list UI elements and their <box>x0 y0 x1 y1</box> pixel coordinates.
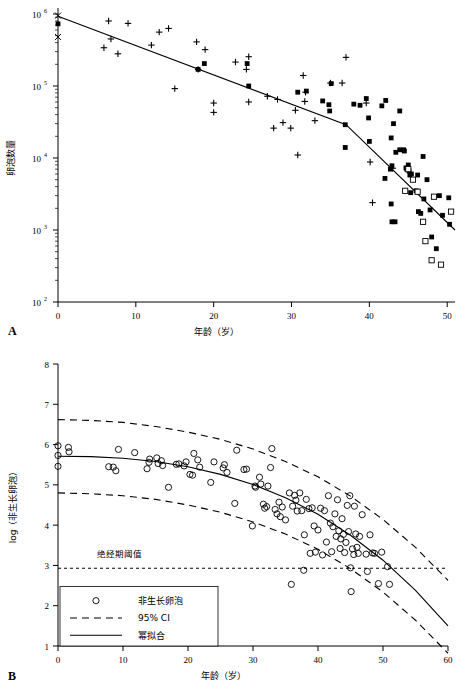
marker-circle-open <box>115 446 121 452</box>
marker-circle-open <box>301 532 307 538</box>
marker-square-filled <box>409 172 414 177</box>
y-tick-label-b: 2 <box>45 601 50 611</box>
marker-square-open <box>438 262 443 267</box>
x-axis-label-b: 年龄（岁） <box>201 670 246 681</box>
marker-square-filled <box>428 208 433 213</box>
marker-plus <box>202 46 208 52</box>
marker-circle-open <box>329 549 335 555</box>
marker-square-filled <box>366 116 371 121</box>
y-axis-label-a: 卵泡数量 <box>5 140 16 176</box>
marker-square-open <box>420 219 425 224</box>
marker-circle-open <box>332 511 338 517</box>
marker-circle-open <box>343 539 349 545</box>
marker-square-filled <box>358 103 363 108</box>
x-tick-label-b: 20 <box>184 655 194 665</box>
marker-square-filled <box>329 81 334 86</box>
y-tick-label-a: 102 <box>32 296 47 308</box>
x-tick-label-a: 0 <box>56 311 61 321</box>
marker-circle-open <box>334 497 340 503</box>
marker-square-filled <box>389 136 394 141</box>
marker-square-open <box>423 239 428 244</box>
marker-square-filled <box>246 84 251 89</box>
y-tick-label-a: 105 <box>32 80 47 92</box>
svg-text:4: 4 <box>44 152 47 158</box>
marker-circle-open <box>191 450 197 456</box>
marker-plus <box>292 107 298 113</box>
chart-b-canvas: 123456780102030405060log（非生长卵泡）年龄（岁）绝经期阈… <box>0 350 469 693</box>
marker-circle-open <box>351 503 357 509</box>
marker-plus <box>210 109 216 115</box>
marker-circle-open <box>258 481 264 487</box>
marker-square-open <box>431 194 436 199</box>
panel-a: 10210310410510601020304050卵泡数量年龄（岁） A <box>0 0 469 350</box>
marker-square-filled <box>421 154 426 159</box>
marker-plus <box>246 54 252 60</box>
marker-circle-open <box>267 464 273 470</box>
marker-square-filled <box>56 21 61 26</box>
marker-square-filled <box>383 98 388 103</box>
panel-b-letter: B <box>8 670 16 682</box>
marker-circle-open <box>299 508 305 514</box>
marker-plus <box>302 98 308 104</box>
marker-plus <box>193 39 199 45</box>
marker-circle-open <box>132 450 138 456</box>
marker-square-filled <box>418 211 423 216</box>
svg-text:10: 10 <box>32 10 42 20</box>
marker-square-filled <box>397 109 402 114</box>
y-tick-label-b: 6 <box>45 440 50 450</box>
marker-plus <box>300 72 306 78</box>
x-tick-label-b: 0 <box>56 655 61 665</box>
marker-circle-open <box>301 567 307 573</box>
marker-plus <box>246 99 252 105</box>
marker-square-filled <box>383 176 388 181</box>
marker-circle-open <box>234 447 240 453</box>
marker-circle-open <box>232 500 238 506</box>
marker-circle-open <box>208 479 214 485</box>
marker-square-filled <box>389 202 394 207</box>
svg-text:6: 6 <box>44 8 47 14</box>
chart-a-canvas: 10210310410510601020304050卵泡数量年龄（岁） <box>0 0 469 350</box>
marker-square-filled <box>393 219 398 224</box>
marker-circle-open <box>342 549 348 555</box>
marker-circle-open <box>282 517 288 523</box>
y-tick-label-b: 8 <box>45 360 50 370</box>
marker-circle-open <box>325 493 331 499</box>
svg-text:10: 10 <box>32 226 42 236</box>
marker-circle-open <box>195 457 201 463</box>
marker-plus <box>295 152 301 158</box>
panel-a-letter: A <box>8 325 17 337</box>
marker-square-filled <box>402 149 407 154</box>
marker-square-filled <box>429 235 434 240</box>
marker-plus <box>280 119 286 125</box>
y-tick-label-b: 4 <box>45 521 50 531</box>
marker-plus <box>232 59 238 65</box>
marker-plus <box>339 80 345 86</box>
marker-plus <box>274 96 280 102</box>
y-tick-label-a: 106 <box>32 8 47 20</box>
marker-square-open <box>403 188 408 193</box>
marker-square-open <box>415 189 420 194</box>
marker-circle-open <box>211 459 217 465</box>
marker-circle-open <box>249 523 255 529</box>
marker-circle-open <box>303 496 309 502</box>
marker-square-open <box>429 258 434 263</box>
marker-square-filled <box>304 89 309 94</box>
svg-text:10: 10 <box>32 298 42 308</box>
marker-square-filled <box>327 109 332 114</box>
marker-square-filled <box>440 213 445 218</box>
marker-square-filled <box>408 190 413 195</box>
y-tick-label-b: 1 <box>45 642 50 652</box>
figure-root: 10210310410510601020304050卵泡数量年龄（岁） A 12… <box>0 0 469 693</box>
y-tick-label-a: 103 <box>32 224 47 236</box>
marker-circle-open <box>319 552 325 558</box>
legend-label-0: 非生长卵泡 <box>138 595 183 606</box>
marker-square-filled <box>367 139 372 144</box>
y-tick-label-b: 5 <box>45 480 50 490</box>
x-tick-label-b: 30 <box>249 655 259 665</box>
marker-circle-open <box>315 527 321 533</box>
x-tick-label-a: 10 <box>131 311 141 321</box>
marker-circle-open <box>279 504 285 510</box>
marker-plus <box>156 29 162 35</box>
marker-plus <box>165 25 171 31</box>
y-tick-label-b: 3 <box>45 561 50 571</box>
